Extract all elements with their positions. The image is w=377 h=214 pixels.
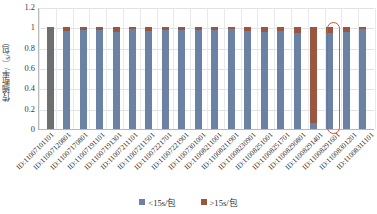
bar-slot[interactable]	[141, 8, 157, 129]
bar-segment-under-15s	[96, 30, 103, 129]
bar-slot[interactable]	[239, 8, 255, 129]
stacked-bar[interactable]	[129, 27, 136, 129]
bar-segment-under-15s	[63, 31, 70, 129]
bar-segment-under-15s	[261, 32, 268, 129]
bar-segment-under-15s	[228, 29, 235, 129]
bar-segment-under-15s	[80, 30, 87, 129]
stacked-bar[interactable]	[343, 27, 350, 129]
stacked-bar[interactable]	[228, 27, 235, 129]
bar-slot[interactable]	[190, 8, 206, 129]
stacked-bar[interactable]	[277, 27, 284, 129]
vertical-gridline	[375, 8, 376, 129]
stacked-bar[interactable]	[294, 27, 301, 129]
bar-segment-under-15s	[343, 32, 350, 129]
bar-slot[interactable]	[124, 8, 140, 129]
bar-slot[interactable]	[157, 8, 173, 129]
stacked-bar[interactable]	[195, 27, 202, 129]
bar-segment-under-15s	[113, 32, 120, 129]
bar-slot[interactable]	[75, 8, 91, 129]
bar-slot[interactable]	[42, 8, 58, 129]
legend-item[interactable]: >15s/包	[201, 196, 238, 208]
y-tick-label: 0.2	[25, 105, 35, 113]
bar-segment-under-15s	[294, 33, 301, 129]
x-axis-tick-labels: ID:11007101101ID:11007120801ID:110071708…	[38, 131, 374, 193]
stacked-bar[interactable]	[359, 27, 366, 129]
bar-slot[interactable]	[272, 8, 288, 129]
stacked-bar[interactable]	[145, 27, 152, 129]
bar-segment-under-15s	[244, 31, 251, 129]
bar-segment-under-15s	[277, 31, 284, 129]
stacked-bar[interactable]	[162, 27, 169, 129]
bar-slot[interactable]	[91, 8, 107, 129]
bar-slot[interactable]	[58, 8, 74, 129]
stacked-bar[interactable]	[96, 27, 103, 129]
y-tick-label: 0.6	[25, 65, 35, 73]
stacked-bar[interactable]	[310, 27, 317, 129]
bar-segment-under-15s	[129, 29, 136, 129]
stacked-bar[interactable]	[178, 27, 185, 129]
bar-segment-over-15s	[310, 27, 317, 123]
y-tick-label: 1.2	[25, 4, 35, 12]
bar-slot[interactable]	[338, 8, 354, 129]
y-axis-tick-labels: 00.20.40.60.811.2	[14, 8, 37, 130]
y-axis-title: 传输断率/（s/包）	[1, 18, 15, 122]
legend-swatch-icon	[201, 199, 207, 205]
bar-slot[interactable]	[223, 8, 239, 129]
stacked-bar[interactable]	[113, 27, 120, 129]
bar-slot[interactable]	[207, 8, 223, 129]
y-tick-label: 0.4	[25, 85, 35, 93]
legend-item[interactable]: <15s/包	[139, 196, 176, 208]
bar-slot[interactable]	[108, 8, 124, 129]
plot-area	[38, 8, 374, 130]
bar-series-group	[39, 8, 374, 129]
bar-segment-under-15s	[359, 29, 366, 129]
stacked-bar[interactable]	[244, 27, 251, 129]
stacked-bar[interactable]	[211, 27, 218, 129]
stacked-bar-chart: 传输断率/（s/包） 00.20.40.60.811.2 ID:11007101…	[0, 0, 377, 214]
bar-segment-under-15s	[310, 123, 317, 129]
y-tick-label: 1	[31, 24, 35, 32]
bar-slot[interactable]	[174, 8, 190, 129]
stacked-bar[interactable]	[63, 27, 70, 129]
bar-slot[interactable]	[355, 8, 371, 129]
bar-slot[interactable]	[322, 8, 338, 129]
bar-slot[interactable]	[256, 8, 272, 129]
bar-segment-under-15s	[195, 30, 202, 129]
bar-slot[interactable]	[289, 8, 305, 129]
bar-segment-under-15s	[47, 27, 54, 129]
bar-segment-under-15s	[211, 30, 218, 129]
legend-label: <15s/包	[148, 196, 176, 208]
y-tick-label: 0	[31, 126, 35, 134]
stacked-bar[interactable]	[80, 27, 87, 129]
bar-segment-under-15s	[162, 30, 169, 129]
legend-swatch-icon	[139, 199, 145, 205]
legend-label: >15s/包	[210, 196, 238, 208]
bar-segment-under-15s	[326, 33, 333, 129]
y-tick-label: 0.8	[25, 44, 35, 52]
bar-segment-under-15s	[178, 30, 185, 129]
stacked-bar[interactable]	[326, 27, 333, 129]
chart-legend: <15s/包>15s/包	[0, 193, 377, 211]
stacked-bar[interactable]	[47, 27, 54, 129]
stacked-bar[interactable]	[261, 27, 268, 129]
bar-slot[interactable]	[305, 8, 321, 129]
bar-segment-under-15s	[145, 31, 152, 129]
